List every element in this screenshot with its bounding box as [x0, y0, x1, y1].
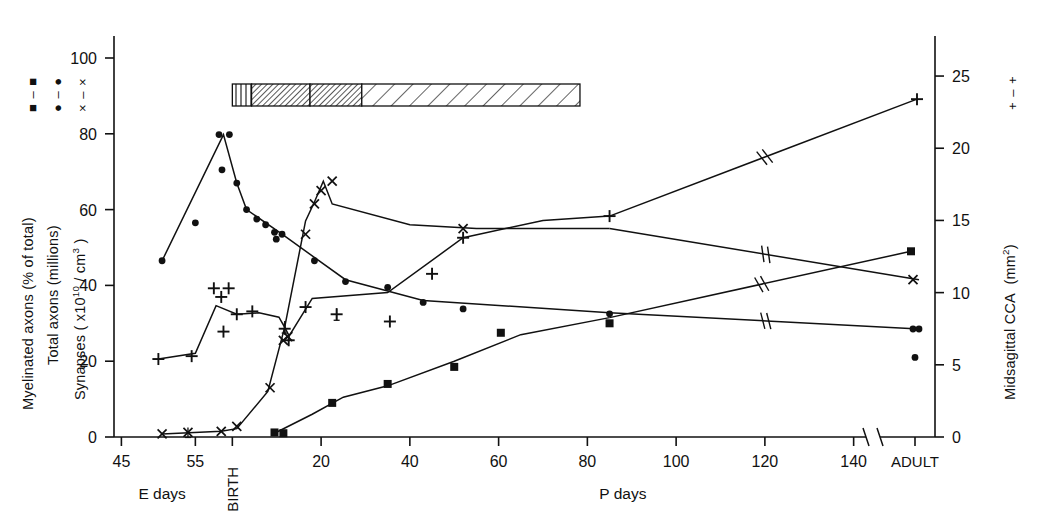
x-tick-label-p-80: 80 [578, 453, 596, 470]
y-tick-label-right-5: 5 [952, 357, 961, 374]
data-point-plus-13 [426, 268, 438, 280]
timeline-segment-3 [362, 84, 580, 106]
timeline-segment-2 [310, 84, 362, 106]
data-point-plus-3 [223, 282, 235, 294]
data-point-plus-7 [246, 305, 258, 317]
y-tick-label-left-20: 20 [79, 353, 97, 370]
data-point-square-0 [271, 428, 279, 436]
x-tick-label-p-40: 40 [401, 453, 419, 470]
timeline-segment-0 [232, 84, 251, 106]
x-tick-label-p-60: 60 [490, 453, 508, 470]
series-line-bridge-1 [610, 229, 919, 280]
series-line-bridge-2 [610, 251, 911, 317]
data-point-square-7 [907, 247, 915, 255]
timeline-hatch-bar [232, 84, 580, 106]
data-point-square-4 [450, 363, 458, 371]
data-point-circle-13 [342, 278, 349, 285]
data-point-circle-8 [262, 221, 269, 228]
series-line-bridge-3 [610, 99, 917, 216]
x-tick-label-p-120: 120 [752, 453, 779, 470]
x-tick-label-adult: ADULT [891, 453, 939, 470]
data-point-square-2 [328, 399, 336, 407]
data-point-circle-6 [243, 206, 250, 213]
data-point-square-5 [497, 329, 505, 337]
data-point-plus-4 [215, 291, 227, 303]
data-point-circle-3 [226, 131, 233, 138]
data-point-square-3 [384, 380, 392, 388]
data-point-circle-0 [159, 257, 166, 264]
x-axis-caption-p-days: P days [599, 485, 646, 502]
figure-root: Myelinated axons (% of total) Total axon… [0, 0, 1049, 511]
data-point-plus-16 [911, 93, 923, 105]
y-tick-label-right-10: 10 [952, 285, 970, 302]
data-point-circle-9 [271, 229, 278, 236]
data-point-circle-2 [216, 131, 223, 138]
data-point-circle-4 [219, 166, 226, 173]
y-tick-label-right-25: 25 [952, 68, 970, 85]
data-point-plus-5 [217, 326, 229, 338]
data-point-circle-14 [384, 284, 391, 291]
y-tick-label-left-80: 80 [79, 126, 97, 143]
data-point-plus-6 [231, 308, 243, 320]
data-point-plus-9 [283, 334, 295, 346]
data-point-square-1 [279, 429, 287, 437]
timeline-segment-1 [252, 84, 310, 106]
y-tick-label-right-0: 0 [952, 429, 961, 446]
data-point-plus-12 [384, 315, 396, 327]
data-point-circle-20 [912, 354, 919, 361]
x-axis-caption-e-days: E days [138, 485, 186, 502]
data-point-circle-18 [910, 326, 917, 333]
data-point-plus-15 [604, 210, 616, 222]
x-tick-label-p-140: 140 [840, 453, 867, 470]
y-tick-label-right-15: 15 [952, 212, 970, 229]
data-point-circle-12 [311, 257, 318, 264]
y-tick-label-left-60: 60 [79, 202, 97, 219]
y-tick-label-right-20: 20 [952, 140, 970, 157]
data-point-circle-17 [606, 310, 613, 317]
series-line-2a [275, 318, 610, 434]
data-point-square-6 [606, 319, 614, 327]
data-point-plus-14 [457, 232, 469, 244]
y-tick-label-left-100: 100 [70, 50, 97, 67]
data-point-cross-3 [232, 422, 241, 431]
data-point-circle-1 [192, 219, 199, 226]
data-point-circle-19 [916, 326, 923, 333]
data-point-circle-11 [279, 231, 286, 238]
x-tick-label-e-55: 55 [186, 453, 204, 470]
x-tick-label-p-100: 100 [663, 453, 690, 470]
data-point-plus-2 [208, 282, 220, 294]
plot-canvas: 02040608010005101520254555BIRTH204060801… [0, 0, 1049, 511]
y-tick-label-left-40: 40 [79, 277, 97, 294]
data-point-circle-15 [420, 299, 427, 306]
x-tick-label-birth: BIRTH [224, 467, 241, 511]
data-point-circle-10 [273, 236, 280, 243]
y-tick-label-left-0: 0 [88, 429, 97, 446]
data-point-circle-5 [233, 180, 240, 187]
x-tick-label-e-45: 45 [112, 453, 130, 470]
data-point-plus-0 [152, 353, 164, 365]
data-point-cross-10 [328, 177, 337, 186]
data-point-circle-7 [253, 216, 260, 223]
x-tick-label-p-20: 20 [312, 453, 330, 470]
data-point-circle-16 [460, 305, 467, 312]
